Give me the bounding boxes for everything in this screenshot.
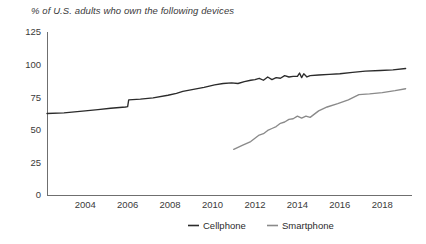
y-tick-label: 100: [25, 59, 41, 70]
y-tick-label: 25: [30, 157, 41, 168]
y-tick-label: 0: [36, 189, 41, 200]
chart-container: % of U.S. adults who own the following d…: [0, 0, 426, 244]
x-tick-label: 2006: [117, 199, 138, 210]
y-tick-label: 50: [30, 124, 41, 135]
x-tick-label: 2012: [244, 199, 265, 210]
x-tick-label: 2018: [372, 199, 393, 210]
x-tick-label: 2014: [287, 199, 308, 210]
chart-legend: CellphoneSmartphone: [188, 220, 334, 231]
line-chart-svg: 0255075100125 20042006200820102012201420…: [0, 0, 426, 244]
y-tick-label: 125: [25, 26, 41, 37]
series-line-smartphone: [234, 89, 406, 150]
x-tick-label: 2010: [202, 199, 223, 210]
x-tick-label: 2008: [160, 199, 181, 210]
x-tick-label: 2016: [329, 199, 350, 210]
legend-label-cellphone: Cellphone: [203, 220, 246, 231]
series-line-cellphone: [47, 69, 406, 114]
x-tick-label: 2004: [75, 199, 96, 210]
x-axis-tick-labels: 20042006200820102012201420162018: [75, 199, 393, 210]
y-tick-label: 75: [30, 92, 41, 103]
y-axis-tick-labels: 0255075100125: [25, 26, 41, 200]
series-lines: [47, 69, 406, 150]
legend-label-smartphone: Smartphone: [282, 220, 334, 231]
